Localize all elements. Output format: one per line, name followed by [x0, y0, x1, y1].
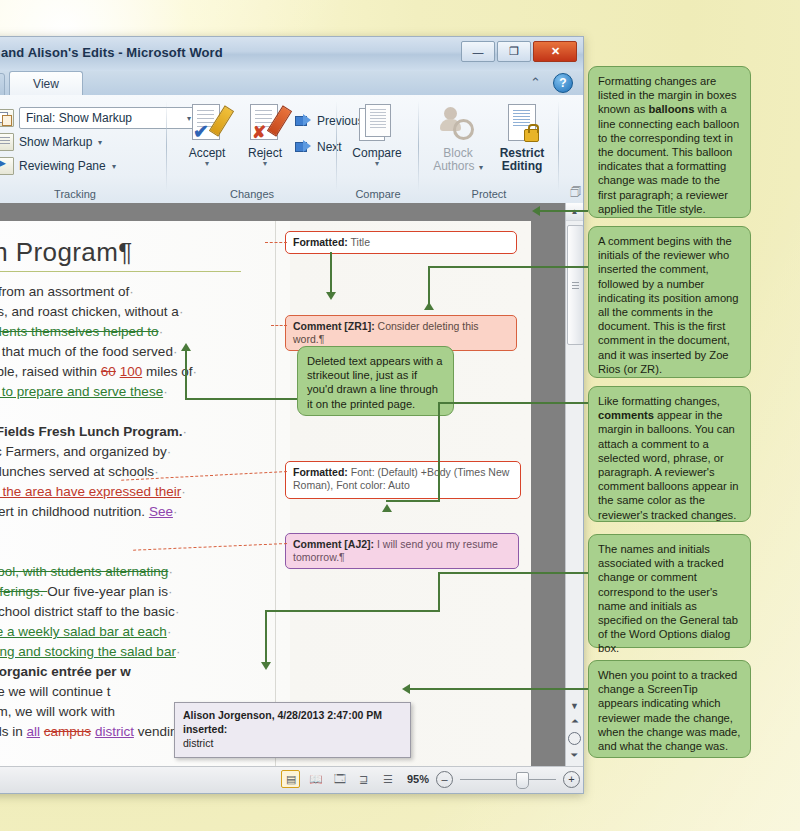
status-bar: ▤ 📖 🗔 ⊒ ☰ 95% – +: [0, 766, 583, 793]
view-button-web-layout[interactable]: 🗔: [331, 771, 348, 787]
text-run: campus: [44, 724, 91, 739]
zoom-out-button[interactable]: –: [436, 771, 453, 788]
reviewing-pane-button[interactable]: Reviewing Pane ▾: [0, 157, 116, 175]
group-label-changes: Changes: [167, 188, 337, 200]
document-body-lines: oose from an assortment of·dishes, and r…: [0, 282, 275, 742]
balloon-formatted-title[interactable]: Formatted: Title: [285, 231, 517, 254]
restore-button[interactable]: ❐: [497, 41, 531, 62]
view-button-draft[interactable]: ☰: [379, 771, 396, 787]
text-run: ·: [173, 344, 178, 359]
document-title: nch Program¶: [0, 237, 275, 268]
connector-line: [185, 398, 297, 400]
block-authors-label2: Authors ▾: [427, 160, 489, 174]
text-run: ·: [179, 304, 184, 319]
connector-line: [438, 572, 440, 612]
chevron-up-icon[interactable]: ⌃: [530, 77, 544, 89]
document-area: nch Program¶ oose from an assortment of·…: [0, 203, 583, 793]
callout-screentip: When you point to a tracked change a Scr…: [588, 660, 751, 758]
text-run: reparing and stocking the salad bar: [0, 644, 176, 659]
tab-partial-previous[interactable]: w: [0, 73, 5, 97]
callout-text-run: The names and initials associated with a…: [598, 543, 738, 654]
help-icon[interactable]: ?: [553, 73, 573, 93]
chevron-down-icon: ▾: [98, 138, 102, 147]
window-title: and Alison's Edits - Microsoft Word: [1, 45, 223, 60]
zoom-percentage[interactable]: 95%: [407, 773, 429, 785]
view-button-full-screen-reading[interactable]: 📖: [307, 771, 324, 787]
text-run: n the lunches served at schools: [0, 464, 154, 479]
block-authors-button[interactable]: Block Authors ▾: [427, 103, 489, 174]
ribbon-group-tracking: Final: Show Markup ▾ Show Markup ▾ Revie…: [0, 95, 167, 203]
document-line: and school district staff to the basic·: [0, 602, 275, 622]
callout-text-run: appear in the margin in balloons. You ca…: [598, 409, 739, 520]
scroll-up-button[interactable]: ▲: [566, 203, 583, 221]
scroll-down-button[interactable]: ▼: [570, 701, 579, 711]
reject-button[interactable]: ✘ Reject ▾: [237, 103, 293, 168]
text-run: organic entrée per w: [0, 664, 131, 679]
reject-icon: ✘: [237, 103, 293, 145]
connector-arrow-icon: [261, 662, 271, 670]
chevron-down-icon: ▾: [112, 162, 116, 171]
screentip-tooltip: Alison Jorgenson, 4/28/2013 2:47:00 PM i…: [174, 702, 411, 758]
text-run: Our five-year plan is: [47, 584, 168, 599]
show-markup-button[interactable]: Show Markup ▾: [0, 133, 102, 151]
callout-comments-in-balloons: Like formatting changes, comments appear…: [588, 386, 751, 522]
next-page-button[interactable]: ⏷: [571, 750, 578, 761]
minimize-button[interactable]: —: [461, 41, 495, 62]
view-button-print-layout[interactable]: ▤: [281, 770, 300, 788]
previous-page-button[interactable]: ⏶: [571, 716, 578, 727]
group-label-tracking: Tracking: [0, 188, 167, 200]
close-button[interactable]: ✕: [533, 41, 577, 62]
document-line: rganic Farmers, and organized by·: [0, 442, 275, 462]
connector-line: [265, 610, 439, 612]
markup-area-divider: [275, 221, 276, 767]
markup-area-icon: 🗇: [570, 183, 581, 204]
text-run: and school district staff to the basic: [0, 604, 175, 619]
view-and-zoom-controls: ▤ 📖 🗔 ⊒ ☰ 95% – +: [281, 770, 580, 788]
document-line: [0, 522, 275, 542]
next-change-button[interactable]: Next: [295, 139, 342, 154]
text-run: oose from an assortment of: [0, 284, 129, 299]
view-button-outline[interactable]: ⊒: [355, 771, 372, 787]
restrict-editing-button[interactable]: Restrict Editing: [491, 103, 553, 173]
show-markup-label: Show Markup: [19, 135, 92, 149]
text-run: agine that much of the food served: [0, 344, 173, 359]
reviewing-pane-icon: [0, 157, 14, 175]
accept-icon: ✔: [179, 103, 235, 145]
ribbon-group-protect: Block Authors ▾ Restrict Editing Protect: [419, 95, 559, 203]
document-line: e students themselves helped to·: [0, 322, 275, 342]
zoom-slider-thumb[interactable]: [516, 772, 529, 789]
text-run: ·: [167, 624, 172, 639]
screentip-action: inserted:: [183, 722, 402, 736]
text-run: ·: [181, 484, 186, 499]
connector-line: [438, 402, 588, 404]
text-run: bar offerings.: [0, 584, 47, 599]
screentip-value: district: [183, 736, 402, 750]
connector-arrow-icon: [382, 504, 392, 512]
document-line: possible, raised within 60 100 miles of·: [0, 362, 275, 382]
accept-button[interactable]: ✔ Accept ▾: [179, 103, 235, 168]
chevron-down-icon: ▾: [237, 160, 293, 168]
text-run: ·: [129, 284, 134, 299]
text-run: n school, with students alternating: [0, 564, 168, 579]
balloon-formatted-font[interactable]: Formatted: Font: (Default) +Body (Times …: [285, 461, 521, 499]
select-browse-object-button[interactable]: [568, 732, 581, 745]
track-changes-icon[interactable]: [0, 109, 14, 127]
compare-icon: [349, 103, 405, 145]
scrollbar-thumb[interactable]: [567, 225, 584, 345]
scrollbar-bottom-controls: ▼ ⏶ ⏷: [566, 695, 583, 767]
document-line: reen Fields Fresh Lunch Program.·: [0, 422, 275, 442]
text-run: ·: [183, 424, 188, 439]
document-text[interactable]: nch Program¶ oose from an assortment of·…: [0, 237, 275, 742]
vertical-scrollbar[interactable]: 🗇 ▲ ▼ ⏶ ⏷: [565, 203, 583, 767]
zoom-in-button[interactable]: +: [563, 771, 580, 788]
balloon-comment-aj2[interactable]: Comment [AJ2]: I will send you my resume…: [285, 533, 519, 569]
tab-view[interactable]: View: [9, 71, 83, 96]
compare-button[interactable]: Compare ▾: [349, 103, 405, 168]
text-run: ·: [159, 324, 164, 339]
connector-line: [438, 402, 440, 502]
callout-text-run: Like formatting changes,: [598, 395, 720, 407]
connector-line: [410, 688, 588, 690]
zoom-slider[interactable]: [460, 779, 556, 780]
document-page[interactable]: nch Program¶ oose from an assortment of·…: [0, 221, 531, 767]
document-line: reparing and stocking the salad bar·: [0, 642, 275, 662]
